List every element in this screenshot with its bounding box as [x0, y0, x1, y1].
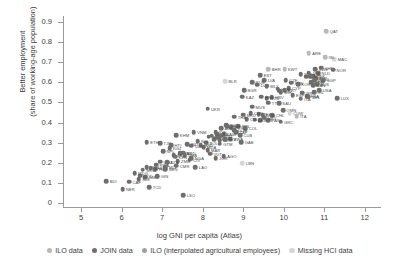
data-point[interactable] [163, 167, 168, 172]
data-point[interactable] [240, 161, 245, 166]
data-point[interactable] [242, 88, 247, 93]
data-point[interactable] [132, 171, 137, 176]
data-point[interactable] [189, 143, 194, 148]
x-tick-mark [81, 207, 82, 212]
x-tick-mark [203, 207, 204, 212]
data-point-label: VNM [197, 130, 206, 135]
data-point[interactable] [289, 80, 294, 85]
data-point[interactable] [288, 111, 293, 116]
data-point[interactable] [155, 174, 160, 179]
data-point-label: PRY [224, 133, 233, 138]
data-point[interactable] [264, 84, 269, 89]
data-point[interactable] [127, 180, 132, 185]
data-point[interactable] [335, 96, 340, 101]
legend-item[interactable]: ILO (interpolated agricultural employees… [142, 246, 280, 255]
data-point[interactable] [324, 29, 329, 34]
x-tick-label: 12 [353, 213, 377, 222]
data-point[interactable] [278, 90, 283, 95]
data-point-label: GAB [245, 140, 254, 145]
data-point[interactable] [250, 105, 255, 110]
data-point[interactable] [258, 73, 263, 78]
y-tick-label: 0.7 [0, 57, 52, 66]
data-point-label: QAT [330, 29, 338, 34]
legend-marker [289, 248, 295, 254]
data-point-label: BFA [154, 166, 162, 171]
data-point[interactable] [149, 166, 154, 171]
legend-item[interactable]: JOIN data [92, 246, 133, 255]
data-point-label: BEL [312, 94, 320, 99]
legend-item[interactable]: ILO data [47, 246, 83, 255]
data-point[interactable] [266, 67, 271, 72]
y-tick-label: 0.1 [0, 178, 52, 187]
data-point[interactable] [219, 133, 224, 138]
data-point[interactable] [240, 95, 245, 100]
data-point-label: LUX [341, 96, 349, 101]
data-point[interactable] [266, 101, 271, 106]
legend-item[interactable]: Missing HCI data [289, 246, 352, 255]
data-point[interactable] [213, 156, 218, 161]
x-tick-mark [122, 207, 123, 212]
scatter-chart-figure: Better employment (share of working-age … [0, 0, 399, 266]
data-point[interactable] [192, 130, 197, 135]
y-tick-label: 0.8 [0, 37, 52, 46]
y-tick-label: 0.5 [0, 97, 52, 106]
data-point[interactable] [223, 79, 228, 84]
plot-area: QATAREMACISLKWTBHRSWECHENORESTNLDLITDNKJ… [63, 16, 381, 207]
data-point-label: KWT [288, 67, 297, 72]
data-point[interactable] [281, 108, 286, 113]
data-point[interactable] [262, 115, 267, 120]
x-tick-label: 8 [191, 213, 215, 222]
data-point[interactable] [209, 133, 214, 138]
data-point[interactable] [277, 101, 282, 106]
data-point[interactable] [323, 55, 328, 60]
data-point[interactable] [169, 143, 174, 148]
data-point-label: ARE [312, 51, 321, 56]
data-point[interactable] [232, 114, 237, 119]
data-point-label: BEN [169, 167, 178, 172]
data-point[interactable] [208, 151, 213, 156]
data-point[interactable] [278, 119, 283, 124]
data-point[interactable] [250, 80, 255, 85]
data-point[interactable] [308, 74, 313, 79]
data-point-label: BHR [272, 67, 281, 72]
y-tick-label: 0.9 [0, 17, 52, 26]
data-point[interactable] [311, 83, 316, 88]
data-point[interactable] [120, 187, 125, 192]
data-point[interactable] [104, 179, 109, 184]
legend-label: ILO (interpolated agricultural employees… [150, 246, 280, 255]
x-tick-label: 5 [69, 213, 93, 222]
legend-marker [92, 248, 98, 254]
data-point[interactable] [298, 97, 303, 102]
data-point-label: KOR [301, 82, 310, 87]
data-point[interactable] [239, 140, 244, 145]
data-point[interactable] [317, 88, 322, 93]
data-point-label: CUB [243, 133, 252, 138]
data-point[interactable] [294, 114, 299, 119]
data-point[interactable] [193, 165, 198, 170]
data-point[interactable] [307, 51, 312, 56]
data-point[interactable] [255, 82, 260, 87]
data-point[interactable] [145, 140, 150, 145]
data-point[interactable] [290, 93, 295, 98]
data-point[interactable] [282, 67, 287, 72]
x-tick-label: 6 [110, 213, 134, 222]
data-point[interactable] [181, 193, 186, 198]
x-tick-label: 9 [231, 213, 255, 222]
data-point[interactable] [259, 95, 264, 100]
data-point[interactable] [331, 68, 336, 73]
data-point[interactable] [174, 133, 179, 138]
data-point[interactable] [284, 78, 289, 83]
data-point-label: MDA [207, 145, 216, 150]
data-point[interactable] [205, 107, 210, 112]
data-point-label: COL [249, 126, 258, 131]
data-point-label: GIN [161, 174, 169, 179]
data-point-label: CRI [250, 116, 257, 121]
data-point[interactable] [298, 72, 303, 77]
data-point-label: NOR [337, 67, 346, 72]
data-point[interactable] [217, 141, 222, 146]
data-point-label: BLR [228, 79, 236, 84]
legend-label: Missing HCI data [298, 246, 353, 255]
x-tick-mark [284, 207, 285, 212]
data-point[interactable] [161, 149, 166, 154]
data-point[interactable] [147, 185, 152, 190]
